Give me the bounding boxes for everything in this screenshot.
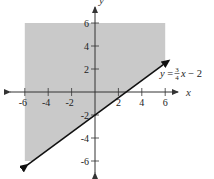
inequality-graph: -6-4-2246 642-2-4-6 x y y = 3 4 x − 2 (0, 0, 214, 179)
y-tick-label: 6 (84, 18, 89, 29)
x-tick-label: 6 (163, 97, 168, 108)
y-tick-label: -2 (81, 110, 89, 121)
y-tick-label: 2 (84, 64, 89, 75)
equation-label: y = 3 4 x − 2 (159, 66, 202, 82)
x-tick-label: -6 (19, 97, 27, 108)
equation-fraction-denominator: 4 (175, 74, 179, 82)
x-tick-label: -4 (42, 97, 50, 108)
x-axis-label: x (185, 86, 191, 98)
equation-rhs: x − 2 (180, 68, 202, 79)
y-tick-label: -4 (81, 133, 89, 144)
y-axis-label: y (98, 0, 104, 6)
equation-lhs: y = (159, 68, 173, 79)
x-tick-label: -2 (65, 97, 73, 108)
y-tick-label: 4 (84, 41, 89, 52)
y-tick-label: -6 (81, 156, 89, 167)
x-tick-label: 4 (139, 97, 144, 108)
